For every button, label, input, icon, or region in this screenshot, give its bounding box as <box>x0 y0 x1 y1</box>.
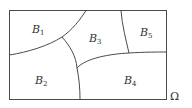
boundary-b1 <box>10 11 87 56</box>
region-label-b4: B4 <box>123 74 137 88</box>
svg-text:B5: B5 <box>139 26 153 40</box>
svg-text:B3: B3 <box>88 32 102 46</box>
partition-diagram: B1 B2 B3 B4 B5 Ω <box>0 0 192 108</box>
svg-text:B2: B2 <box>34 74 48 88</box>
boundary-b3-b5 <box>121 11 129 54</box>
boundary-b3-b4 <box>77 52 167 68</box>
omega-label: Ω <box>170 90 179 103</box>
region-label-b1: B1 <box>31 23 45 37</box>
region-label-b2: B2 <box>34 74 48 88</box>
region-label-b5: B5 <box>139 26 153 40</box>
svg-text:B4: B4 <box>123 74 137 88</box>
region-label-b3: B3 <box>88 32 102 46</box>
svg-text:B1: B1 <box>31 23 45 37</box>
